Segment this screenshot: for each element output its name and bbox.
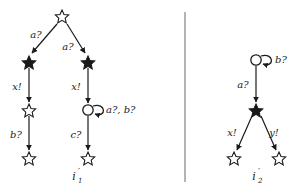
svg-text:i: i <box>252 170 256 183</box>
svg-text:′: ′ <box>258 167 260 177</box>
self-loop-R0 <box>261 55 271 64</box>
node-L4-circle-hollow[interactable] <box>83 105 93 115</box>
figure-canvas: a? a? x! x! b? c? a?, b? i ′ 1 <box>0 0 300 194</box>
node-L6-star-hollow[interactable] <box>81 152 94 165</box>
automaton-right: a? x! y! b? i ′ 2 <box>227 54 287 185</box>
edge-label-L0-L2: a? <box>62 41 74 52</box>
edge-label-L2-L4: x! <box>71 81 81 92</box>
node-L0-star-hollow[interactable] <box>55 10 68 23</box>
svg-text:2: 2 <box>257 177 263 185</box>
init-label-right: i ′ 2 <box>252 167 263 185</box>
init-label-left: i ′ 1 <box>72 167 82 185</box>
self-loop-label-L4: a?, b? <box>106 104 136 115</box>
edge-label-R1-R2: x! <box>227 127 237 138</box>
self-loop-L4 <box>93 105 103 114</box>
node-L5-star-hollow[interactable] <box>22 152 35 165</box>
edge-R1-R2 <box>237 116 252 150</box>
node-R0-circle-hollow[interactable] <box>251 55 261 65</box>
svg-text:′: ′ <box>78 167 80 177</box>
edge-label-R1-R3: y! <box>268 127 279 138</box>
node-R1-star-solid[interactable] <box>249 104 262 117</box>
node-R3-star-hollow[interactable] <box>272 152 285 165</box>
svg-text:i: i <box>72 170 76 183</box>
edge-label-L3-L5: b? <box>10 129 22 140</box>
self-loop-label-R0: b? <box>275 54 287 65</box>
node-L3-star-hollow[interactable] <box>22 104 35 117</box>
edge-label-L1-L3: x! <box>12 81 22 92</box>
svg-text:1: 1 <box>78 177 82 185</box>
node-L2-star-solid[interactable] <box>81 56 94 69</box>
edge-label-L4-L6: c? <box>71 129 83 140</box>
automata-diagram-svg: a? a? x! x! b? c? a?, b? i ′ 1 <box>0 0 300 194</box>
edge-label-R0-R1: a? <box>237 79 249 90</box>
node-R2-star-hollow[interactable] <box>227 152 240 165</box>
edge-label-L0-L1: a? <box>30 29 42 40</box>
automaton-left: a? a? x! x! b? c? a?, b? i ′ 1 <box>10 10 136 185</box>
node-L1-star-solid[interactable] <box>22 56 35 69</box>
